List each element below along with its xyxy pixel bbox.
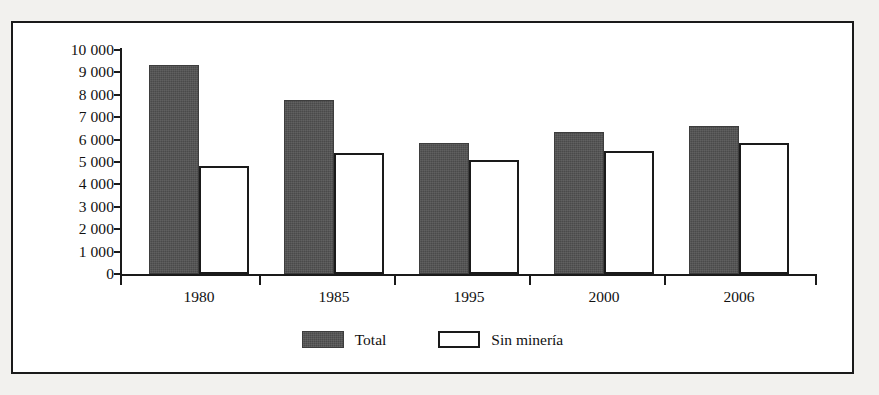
y-tick-mark	[114, 228, 122, 230]
x-label-1995: 1995	[409, 289, 529, 305]
x-tick-3	[529, 276, 531, 285]
y-tick-mark	[114, 71, 122, 73]
legend-label-sin-mineria: Sin minería	[491, 332, 563, 348]
x-tick-end	[815, 276, 817, 285]
bar-total-2000[interactable]	[554, 132, 604, 274]
y-tick-label: 8 000	[22, 87, 114, 103]
y-tick-label: 6 000	[22, 132, 114, 148]
x-label-1985: 1985	[274, 289, 394, 305]
y-tick-label: 3 000	[22, 199, 114, 215]
x-tick-4	[664, 276, 666, 285]
y-tick-mark	[114, 94, 122, 96]
y-tick-mark	[114, 206, 122, 208]
y-tick-label: 4 000	[22, 177, 114, 193]
legend-label-total: Total	[355, 332, 387, 348]
bar-total-1995[interactable]	[419, 143, 469, 274]
chart-page: 10 000 9 000 8 000 7 000 6 000 5 000	[0, 0, 879, 395]
y-tick-label: 5 000	[22, 154, 114, 170]
bar-total-1980[interactable]	[149, 65, 199, 274]
y-tick-label: 0	[22, 266, 114, 282]
legend-swatch-total-icon	[302, 331, 344, 348]
legend-swatch-sin-mineria-icon	[438, 331, 480, 348]
bar-total-1985[interactable]	[284, 100, 334, 274]
y-tick-mark	[114, 49, 122, 51]
y-tick-mark	[114, 139, 122, 141]
y-tick-label: 10 000	[22, 42, 114, 58]
x-tick-start	[120, 276, 122, 285]
bar-sin-mineria-2006[interactable]	[739, 143, 789, 274]
bar-sin-mineria-2000[interactable]	[604, 151, 654, 274]
legend-item-sin-mineria[interactable]: Sin minería	[438, 331, 563, 348]
chart-legend: Total Sin minería	[13, 331, 852, 348]
x-label-2000: 2000	[544, 289, 664, 305]
bar-sin-mineria-1980[interactable]	[199, 166, 249, 274]
bar-sin-mineria-1985[interactable]	[334, 153, 384, 274]
x-tick-1	[259, 276, 261, 285]
y-tick-label: 7 000	[22, 109, 114, 125]
y-tick-mark	[114, 161, 122, 163]
y-tick-label: 9 000	[22, 65, 114, 81]
y-tick-mark	[114, 251, 122, 253]
y-tick-label: 1 000	[22, 244, 114, 260]
y-tick-mark	[114, 116, 122, 118]
y-tick-mark	[114, 273, 122, 275]
y-tick-label: 2 000	[22, 221, 114, 237]
x-label-2006: 2006	[679, 289, 799, 305]
plot-area: 10 000 9 000 8 000 7 000 6 000 5 000	[13, 23, 852, 372]
x-axis-line	[120, 274, 817, 276]
bar-sin-mineria-1995[interactable]	[469, 160, 519, 274]
legend-item-total[interactable]: Total	[302, 331, 387, 348]
figure-frame: 10 000 9 000 8 000 7 000 6 000 5 000	[11, 21, 854, 374]
y-tick-mark	[114, 183, 122, 185]
x-label-1980: 1980	[139, 289, 259, 305]
x-tick-2	[394, 276, 396, 285]
bar-total-2006[interactable]	[689, 126, 739, 274]
